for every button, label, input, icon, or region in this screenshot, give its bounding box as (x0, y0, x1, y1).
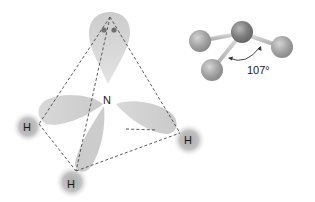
bond-angle-label: 107° (247, 64, 270, 76)
bond-angle-arc (229, 47, 260, 60)
orbital-model: N H H H (12, 12, 206, 199)
hydrogen-ball-left (189, 30, 211, 52)
hydrogen-ball-bottom (201, 59, 223, 81)
hydrogen-label-left: H (23, 121, 31, 133)
arc-arrowhead-right (258, 46, 262, 51)
nitrogen-label: N (103, 94, 111, 106)
ammonia-diagram: N H H H 107° (0, 0, 315, 202)
lone-pair-electron (101, 27, 106, 32)
hydrogen-label-bottom: H (67, 178, 75, 190)
arc-arrowhead-left (228, 57, 233, 61)
lone-pair-electron (111, 27, 116, 32)
bonding-lobe-right (116, 101, 177, 134)
ball-and-stick-model: 107° (189, 21, 293, 81)
hydrogen-label-right: H (184, 134, 192, 146)
lone-pair-lobe (89, 12, 130, 84)
nitrogen-ball (231, 21, 253, 43)
hydrogen-ball-right (271, 36, 293, 58)
